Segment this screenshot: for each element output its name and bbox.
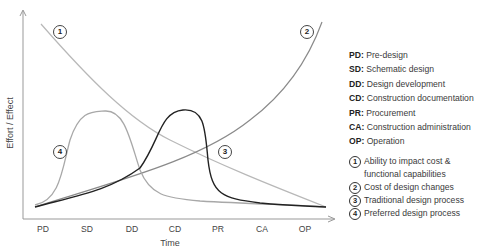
x-axis-label: Time [150, 238, 190, 248]
number-1-icon: 1 [349, 156, 361, 168]
legend-item-cd: CD: Construction documentation [349, 91, 479, 105]
tick-cd: CD [160, 224, 190, 234]
number-2-icon: 2 [349, 182, 361, 194]
curve-2-cost-of-changes [35, 22, 322, 207]
curve-label-4: 4 [53, 145, 67, 159]
curve-label-2: 2 [300, 25, 314, 39]
tick-dd: DD [117, 224, 147, 234]
tick-sd: SD [72, 224, 102, 234]
number-3-icon: 3 [349, 195, 361, 207]
legend-item-sd: SD: Schematic design [349, 62, 479, 76]
curve-legend: 1Ability to impact cost & functional cap… [349, 155, 479, 220]
curve-1-ability-to-impact [41, 24, 326, 207]
curves-svg [0, 0, 340, 252]
legend-item-ca: CA: Construction administration [349, 120, 479, 134]
curve-legend-item-4: 4Preferred design process [349, 207, 479, 220]
legend-item-dd: DD: Design development [349, 77, 479, 91]
curve-legend-item-1: 1Ability to impact cost & functional cap… [349, 155, 479, 181]
tick-pd: PD [28, 224, 58, 234]
legend-item-op: OP: Operation [349, 134, 479, 148]
tick-op: OP [290, 224, 320, 234]
legend: PD: Pre-design SD: Schematic design DD: … [349, 48, 479, 220]
legend-item-pd: PD: Pre-design [349, 48, 479, 62]
tick-ca: CA [247, 224, 277, 234]
legend-item-pr: PR: Procurement [349, 106, 479, 120]
axes [20, 10, 335, 222]
curve-label-3: 3 [218, 145, 232, 159]
curve-legend-item-3: 3Traditional design process [349, 194, 479, 207]
diagram-area: Effort / Effect Time PD SD DD CD PR CA O… [0, 0, 340, 252]
y-axis-label: Effort / Effect [5, 83, 15, 163]
tick-pr: PR [203, 224, 233, 234]
number-4-icon: 4 [349, 208, 361, 220]
curve-legend-item-2: 2Cost of design changes [349, 181, 479, 194]
curve-label-1: 1 [53, 25, 67, 39]
